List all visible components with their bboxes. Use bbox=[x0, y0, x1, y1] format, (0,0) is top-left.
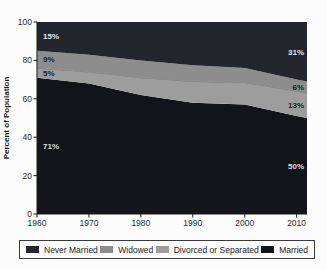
y-tick-label: 60 bbox=[23, 94, 33, 104]
x-tick-label: 1990 bbox=[183, 218, 202, 228]
legend-label-never-married: Never Married bbox=[44, 245, 98, 255]
y-tick-label: 40 bbox=[23, 132, 33, 142]
legend-label-married: Married bbox=[279, 245, 308, 255]
marital-status-chart-page: Percent of Population 020406080100196019… bbox=[0, 0, 327, 270]
x-tick-label: 1960 bbox=[28, 218, 47, 228]
annotation-right-widowed: 6% bbox=[292, 83, 304, 92]
y-axis-label: Percent of Population bbox=[2, 77, 11, 160]
legend-swatch-widowed bbox=[100, 246, 113, 253]
legend-swatch-divorced-or-separated bbox=[156, 246, 169, 253]
y-tick-label: 100 bbox=[18, 17, 32, 27]
stacked-area-chart: Percent of Population 020406080100196019… bbox=[0, 0, 327, 236]
legend-item-widowed: Widowed bbox=[100, 245, 153, 255]
legend-label-widowed: Widowed bbox=[118, 245, 153, 255]
annotation-left-married: 71% bbox=[43, 142, 59, 151]
legend-item-never-married: Never Married bbox=[26, 245, 98, 255]
x-tick-label: 1980 bbox=[131, 218, 150, 228]
y-tick-label: 80 bbox=[23, 55, 33, 65]
y-tick-label: 20 bbox=[23, 171, 33, 181]
annotation-left-divorced-or-separated: 5% bbox=[43, 69, 55, 78]
annotation-right-divorced-or-separated: 13% bbox=[288, 101, 304, 110]
legend-swatch-married bbox=[261, 246, 274, 253]
legend-item-married: Married bbox=[261, 245, 308, 255]
chart-legend: Never MarriedWidowedDivorced or Separate… bbox=[19, 240, 315, 259]
annotation-right-never-married: 31% bbox=[288, 48, 304, 57]
legend-label-divorced-or-separated: Divorced or Separated bbox=[174, 245, 259, 255]
legend-swatch-never-married bbox=[26, 246, 39, 253]
annotation-left-widowed: 9% bbox=[43, 55, 55, 64]
annotation-right-married: 50% bbox=[288, 162, 304, 171]
x-tick-label: 2000 bbox=[235, 218, 254, 228]
annotation-left-never-married: 15% bbox=[43, 32, 59, 41]
x-tick-label: 1970 bbox=[79, 218, 98, 228]
x-tick-label: 2010 bbox=[287, 218, 306, 228]
legend-item-divorced-or-separated: Divorced or Separated bbox=[156, 245, 259, 255]
